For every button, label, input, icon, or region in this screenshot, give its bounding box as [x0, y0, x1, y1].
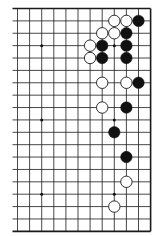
black-stone	[121, 40, 132, 51]
star-point	[113, 44, 116, 47]
white-stone	[109, 15, 120, 26]
star-point	[113, 118, 116, 121]
star-point	[40, 193, 43, 196]
star-point	[40, 44, 43, 47]
white-stone	[97, 77, 108, 88]
white-stone	[121, 77, 132, 88]
white-stone	[97, 28, 108, 39]
black-stone	[133, 77, 144, 88]
black-stone	[121, 52, 132, 63]
white-stone	[121, 176, 132, 187]
black-stone	[121, 28, 132, 39]
black-stone	[121, 102, 132, 113]
white-stone	[109, 28, 120, 39]
black-stone	[97, 52, 108, 63]
star-point	[113, 193, 116, 196]
white-stone	[121, 15, 132, 26]
black-stone	[133, 15, 144, 26]
black-stone	[121, 151, 132, 162]
white-stone	[84, 40, 95, 51]
white-stone	[109, 201, 120, 212]
white-stone	[84, 52, 95, 63]
go-board-diagram	[0, 0, 160, 236]
black-stone	[109, 127, 120, 138]
black-stone	[97, 40, 108, 51]
white-stone	[97, 102, 108, 113]
star-point	[40, 118, 43, 121]
